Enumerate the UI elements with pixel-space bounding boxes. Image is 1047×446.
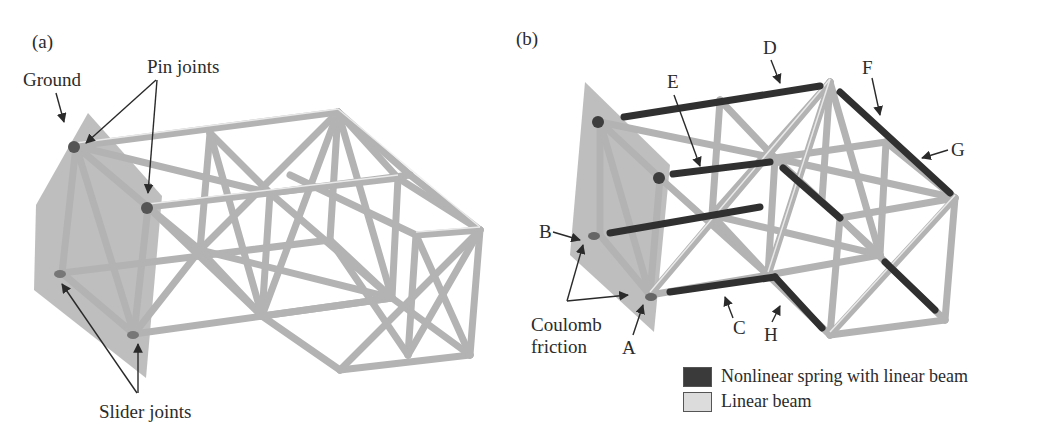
legend: Nonlinear spring with linear beam Linear… — [683, 364, 968, 414]
legend-item-linear: Linear beam — [683, 389, 968, 414]
joint-B — [588, 232, 600, 240]
point-H-label: H — [764, 325, 778, 344]
pin-joint-b-bottom — [653, 172, 665, 184]
legend-item-nonlinear: Nonlinear spring with linear beam — [683, 364, 968, 389]
pin-joint-b-top — [592, 116, 604, 128]
pin-joint-bottom — [141, 202, 153, 214]
legend-label-nonlinear: Nonlinear spring with linear beam — [721, 366, 968, 387]
point-F-label: F — [862, 58, 873, 77]
point-B-label: B — [539, 222, 552, 241]
pin-joint-top — [68, 141, 80, 153]
legend-swatch-light — [683, 392, 712, 412]
point-E-label: E — [667, 72, 679, 91]
slider-joint-left — [54, 270, 66, 278]
panel-a-truss — [34, 109, 480, 378]
point-A-label: A — [622, 338, 636, 357]
panel-b-label: (b) — [516, 29, 538, 48]
coulomb-label-line2: friction — [531, 337, 587, 356]
point-D-label: D — [763, 38, 777, 57]
slider-joints-label: Slider joints — [99, 402, 191, 421]
point-C-label: C — [733, 318, 746, 337]
pin-joints-label: Pin joints — [147, 57, 219, 76]
coulomb-label-line1: Coulomb — [531, 315, 602, 334]
joint-A — [645, 293, 657, 301]
legend-label-linear: Linear beam — [721, 391, 811, 412]
legend-swatch-dark — [683, 367, 712, 387]
panel-b-truss — [570, 79, 955, 335]
slider-joint-right — [127, 331, 139, 339]
ground-label: Ground — [23, 70, 81, 89]
panel-a-label: (a) — [32, 32, 53, 51]
point-G-label: G — [951, 140, 965, 159]
